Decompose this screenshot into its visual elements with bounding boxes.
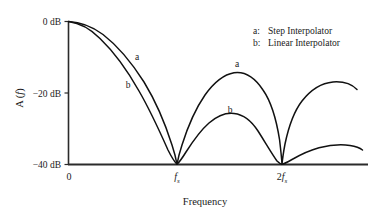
inline-label-a-second-lobe: a [235,59,240,69]
x-tick-label-fs: fs [174,171,180,185]
y-axis-title-prefix: A ( [14,94,26,108]
y-tick-label-0db: 0 dB [43,17,61,27]
frequency-response-chart: 0 dB −20 dB −40 dB A (f) 0 fs 2fs Freque… [0,0,391,216]
y-axis-title-close: ) [14,88,26,92]
y-tick-label-minus20db: −20 dB [33,89,61,99]
x-axis-title: Frequency [183,196,228,207]
legend-key-a: a: [253,26,260,36]
inline-label-a-main-lobe: a [135,52,140,62]
y-tick-label-minus40db: −40 dB [33,160,61,170]
legend-label-a: Step Interpolator [268,26,333,36]
svg-text:A (f): A (f) [14,88,26,108]
x-tick-label-0: 0 [67,171,72,182]
inline-label-b-main-lobe: b [126,80,131,90]
legend-label-b: Linear Interpolator [268,38,341,48]
inline-label-b-second-lobe: b [228,105,233,115]
legend: a: Step Interpolator b: Linear Interpola… [253,26,341,48]
x-tick-label-2fs: 2fs [277,171,288,185]
x-tick-fs-sub: s [177,177,180,185]
legend-key-b: b: [253,38,260,48]
figure-container: 0 dB −20 dB −40 dB A (f) 0 fs 2fs Freque… [0,0,391,216]
x-tick-2fs-sub: s [285,177,288,185]
y-axis-title: A (f) [14,88,26,108]
